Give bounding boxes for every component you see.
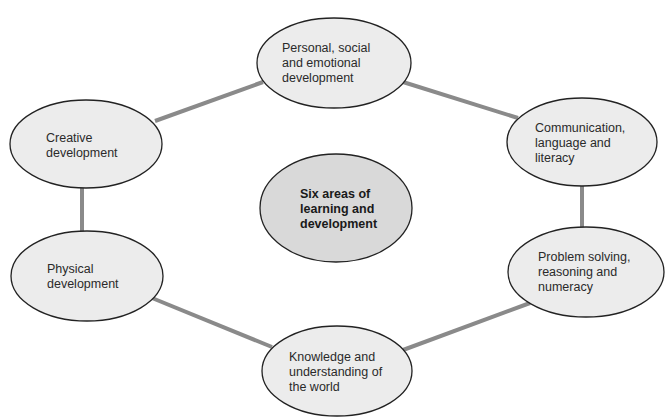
edge-creative-personal (155, 82, 263, 121)
node-knowledge-label: Knowledge and understanding of the world (289, 350, 382, 395)
edge-knowledge-physical (152, 298, 272, 347)
node-creative-label: Creative development (46, 131, 118, 161)
edge-personal-communication (403, 82, 518, 118)
edge-problem-knowledge (403, 303, 530, 350)
node-communication-label: Communication, language and literacy (535, 121, 625, 166)
node-physical-label: Physical development (47, 262, 119, 292)
node-center-label: Six areas of learning and development (300, 187, 377, 232)
node-problem-label: Problem solving, reasoning and numeracy (538, 250, 630, 295)
node-personal-label: Personal, social and emotional developme… (282, 41, 370, 86)
